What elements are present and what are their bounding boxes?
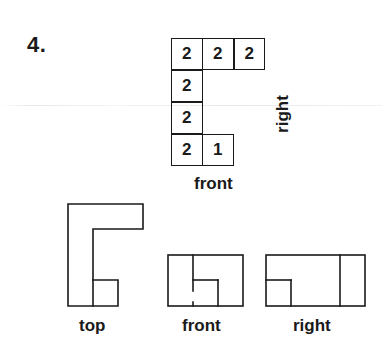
front-view-label: front [182, 316, 221, 336]
front-view-drawing [168, 255, 243, 306]
right-view-label: right [293, 316, 331, 336]
top-view-label: top [79, 316, 105, 336]
orthographic-views [0, 0, 382, 343]
right-view-drawing [266, 255, 365, 306]
top-view-drawing [68, 204, 143, 306]
